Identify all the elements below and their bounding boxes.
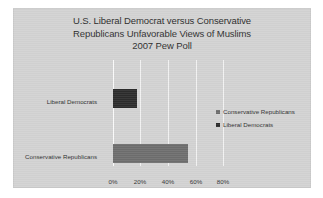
legend-item-liberal-democrats[interactable]: Liberal Democrats xyxy=(216,121,308,129)
category-label-conservative-republicans: Conservative Republicans xyxy=(15,153,97,161)
xtick-label-60: 60% xyxy=(190,178,202,186)
chart-title-line-1: U.S. Liberal Democrat versus Conservativ… xyxy=(21,15,303,28)
chart-title-line-2: Republicans Unfavorable Views of Muslims xyxy=(21,28,303,41)
legend-label-conservative-republicans: Conservative Republicans xyxy=(223,108,295,116)
chart-legend: Conservative Republicans Liberal Democra… xyxy=(216,108,308,134)
category-label-liberal-democrats: Liberal Democrats xyxy=(15,98,97,106)
legend-swatch-icon-conservative-republicans xyxy=(216,110,220,114)
xtick-label-80: 80% xyxy=(217,178,229,186)
bar-liberal-democrats[interactable] xyxy=(113,89,137,108)
chart-title-line-3: 2007 Pew Poll xyxy=(21,40,303,53)
legend-swatch-icon-liberal-democrats xyxy=(216,123,220,127)
chart-figure: U.S. Liberal Democrat versus Conservativ… xyxy=(13,8,311,188)
xtick-label-20: 20% xyxy=(134,178,146,186)
x-axis: 0% 20% 40% 60% 80% xyxy=(100,178,224,188)
bar-row-liberal-democrats xyxy=(113,89,224,108)
bar-conservative-republicans[interactable] xyxy=(113,144,188,163)
legend-item-conservative-republicans[interactable]: Conservative Republicans xyxy=(216,108,308,116)
xtick-label-0: 0% xyxy=(109,178,118,186)
legend-label-liberal-democrats: Liberal Democrats xyxy=(223,121,273,129)
bar-row-conservative-republicans xyxy=(113,144,224,163)
xtick-label-40: 40% xyxy=(162,178,174,186)
plot-area xyxy=(100,60,224,166)
chart-title: U.S. Liberal Democrat versus Conservativ… xyxy=(21,15,303,53)
